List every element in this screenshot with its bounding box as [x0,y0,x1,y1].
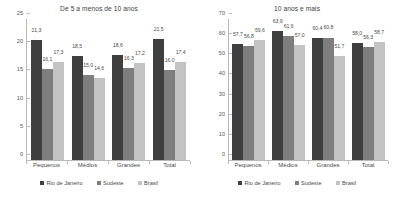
bar-slot: 56,3 [363,19,374,160]
bar[interactable] [323,38,334,160]
legend-item[interactable]: Rio de Janeiro [238,180,281,186]
bar-value-label: 17,2 [135,51,145,57]
bar-group: 21,316,117,3 [27,19,68,160]
bar[interactable] [134,63,145,160]
bar-slot: 21,5 [153,19,164,160]
bar[interactable] [272,31,283,160]
legend-item[interactable]: Brasil [138,180,159,186]
x-axis-tick [388,161,389,164]
bar[interactable] [334,56,345,160]
legend-swatch-icon [238,181,242,185]
bar-value-label: 63,9 [273,19,283,25]
bar[interactable] [352,43,363,160]
plot-area-left: 0510152025 21,316,117,318,515,014,618,61… [26,19,190,161]
y-axis-tick-right: 60 [219,30,229,36]
bar-groups-right: 57,756,859,663,961,657,060,460,851,758,0… [229,19,388,160]
page-title-left: De 5 a menos de 10 anos [0,5,198,12]
legend-item[interactable]: Brasil [336,180,357,186]
bar[interactable] [175,62,186,160]
x-axis-label: Total [348,162,388,176]
bar[interactable] [153,39,164,160]
bar[interactable] [94,78,105,160]
bar-value-label: 18,5 [72,43,82,49]
bar[interactable] [232,44,243,160]
chart-panel-left: De 5 a menos de 10 anos 0510152025 21,31… [0,0,198,205]
bar-slot: 59,6 [254,19,265,160]
bar-slot: 21,3 [31,19,42,160]
bar-group: 18,616,317,2 [109,19,150,160]
bar-slot: 16,1 [42,19,53,160]
x-axis-label: Total [149,162,190,176]
x-axis-label: Médios [268,162,308,176]
bar-slot: 18,6 [112,19,123,160]
bar[interactable] [243,46,254,160]
bar[interactable] [164,70,175,160]
bar-group: 21,516,017,4 [149,19,190,160]
bar-value-label: 14,6 [94,65,104,71]
bar[interactable] [312,38,323,160]
legend-swatch-icon [40,181,44,185]
bar-value-label: 59,6 [255,28,265,34]
y-axis-tick-right: 70 [219,10,229,16]
bar-slot: 17,2 [134,19,145,160]
bar-slot: 17,4 [175,19,186,160]
bar-value-label: 51,7 [334,44,344,50]
bar-value-label: 17,4 [176,50,186,56]
bar[interactable] [283,36,294,160]
x-axis-labels-left: PequenosMédiosGrandesTotal [26,162,190,176]
bar-value-label: 57,0 [295,33,305,39]
bar-slot: 14,6 [94,19,105,160]
y-axis-tick-left: 5 [20,123,27,129]
bar-value-label: 18,6 [113,43,123,49]
bar-slot: 57,7 [232,19,243,160]
bar-value-label: 60,8 [323,25,333,31]
legend-label: Rio de Janeiro [46,180,82,186]
y-axis-tick-left: 10 [17,95,27,101]
legend-item[interactable]: Sudeste [97,180,124,186]
bar-value-label: 21,5 [154,27,164,33]
x-axis-labels-right: PequenosMédiosGrandesTotal [228,162,388,176]
bar[interactable] [123,68,134,160]
bar-value-label: 58,7 [374,30,384,36]
bar[interactable] [363,47,374,160]
legend-label: Sudeste [103,180,124,186]
bar-slot: 57,0 [294,19,305,160]
x-axis-label: Pequenos [228,162,268,176]
legend-item[interactable]: Rio de Janeiro [40,180,83,186]
legend-label: Sudeste [301,180,322,186]
bar-group: 18,515,014,6 [68,19,109,160]
bar-value-label: 15,0 [83,63,93,69]
y-axis-tick-left: 20 [17,38,27,44]
y-axis-tick-right: 10 [219,131,229,137]
bar[interactable] [374,42,385,160]
bar[interactable] [83,75,94,160]
bar-slot: 15,0 [83,19,94,160]
bar[interactable] [53,62,64,160]
y-axis-tick-right: 40 [219,70,229,76]
bar[interactable] [294,45,305,160]
bar-value-label: 56,3 [363,34,373,40]
legend-label: Brasil [342,180,356,186]
legend-item[interactable]: Sudeste [295,180,322,186]
y-axis-tick-right: 0 [222,151,229,157]
bar[interactable] [42,69,53,160]
y-axis-tick-left: 15 [17,66,27,72]
bar-value-label: 17,3 [53,50,63,56]
legend-label: Rio de Janeiro [244,180,280,186]
bar-slot: 61,6 [283,19,294,160]
legend-label: Brasil [144,180,158,186]
bar[interactable] [254,40,265,160]
y-axis-tick-left: 0 [20,151,27,157]
chart-panel-right: 10 anos e mais 010203040506070 57,756,85… [198,0,396,205]
bar[interactable] [31,40,42,160]
bar-slot: 17,3 [53,19,64,160]
legend-swatch-icon [138,181,142,185]
bar[interactable] [112,55,123,160]
x-axis-label: Grandes [108,162,149,176]
bar-group: 63,961,657,0 [269,19,309,160]
bar-value-label: 21,3 [31,28,41,34]
bar-group: 57,756,859,6 [229,19,269,160]
plot-area-right: 010203040506070 57,756,859,663,961,657,0… [228,19,388,161]
bar-slot: 56,8 [243,19,254,160]
bar[interactable] [72,56,83,160]
